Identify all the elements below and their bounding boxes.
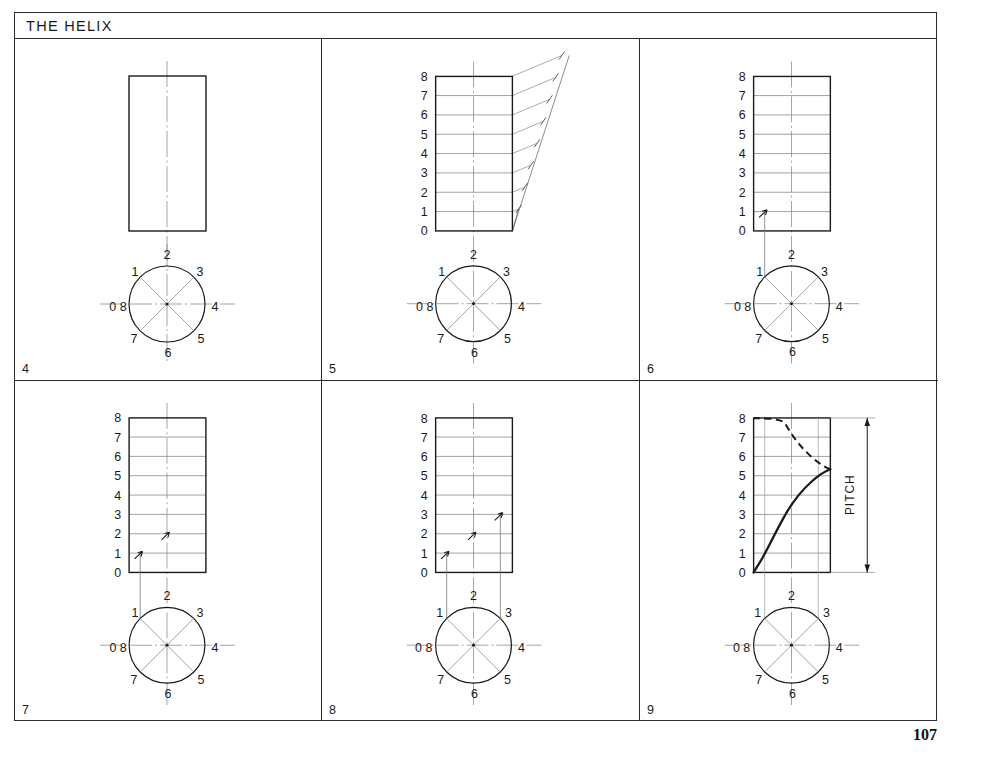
elevation-division-label-3: 3 (739, 508, 746, 522)
elevation-division-label-8: 8 (421, 412, 428, 426)
arrow-marker-level-1 (135, 551, 143, 559)
panel-step-number: 6 (647, 362, 654, 376)
elevation-division-label-3: 3 (421, 508, 428, 522)
elevation-division-label-6: 6 (421, 450, 428, 464)
plan-view: 2 3 4 5 6 7 0 8 1 (725, 248, 860, 360)
elevation-division-label-6: 6 (421, 108, 428, 122)
elevation-view: 0 1 2 3 4 5 6 7 8 (739, 412, 831, 580)
plan-label-5: 5 (822, 332, 829, 346)
plan-label-4: 4 (211, 641, 218, 655)
elevation-division-label-5: 5 (421, 469, 428, 483)
plan-label-3: 3 (197, 265, 204, 279)
elevation-rectangle (129, 76, 206, 231)
elevation-division-label-1: 1 (739, 205, 746, 219)
plan-label-3: 3 (503, 265, 510, 279)
drawing-page: THE HELIX (0, 0, 981, 777)
fan-return-7 (512, 77, 555, 95)
plan-label-0-8: 0 8 (416, 300, 433, 314)
sheet-title-bar: THE HELIX (15, 13, 936, 39)
elevation-division-label-7: 7 (421, 431, 428, 445)
elevation-division-label-4: 4 (739, 147, 746, 161)
plan-label-6: 6 (165, 687, 172, 701)
arrow-marker-level-1 (441, 551, 449, 559)
plan-label-1: 1 (436, 606, 443, 620)
plan-label-3: 3 (823, 606, 830, 620)
fan-inclined-line (512, 55, 569, 230)
panel-9-figure: 0 1 2 3 4 5 6 7 8 (640, 381, 938, 721)
elevation-division-label-2: 2 (421, 186, 428, 200)
panel-step-number: 9 (647, 703, 654, 717)
elevation-view: 0 1 2 3 4 5 6 7 8 (739, 70, 831, 238)
plan-label-2: 2 (164, 589, 171, 603)
plan-label-5: 5 (197, 673, 204, 687)
arrow-marker-level-2 (468, 532, 476, 540)
plan-label-6: 6 (789, 687, 796, 701)
elevation-division-label-8: 8 (421, 70, 428, 84)
elevation-division-lines (436, 437, 513, 553)
helix-curve-hidden (754, 418, 831, 469)
elevation-division-label-6: 6 (739, 450, 746, 464)
panel-8: 0 1 2 3 4 5 6 7 8 (321, 380, 639, 721)
elevation-division-label-0: 0 (739, 566, 746, 580)
fan-return-4 (512, 143, 537, 153)
drawing-sheet-border: THE HELIX (14, 12, 937, 721)
plan-label-4: 4 (836, 300, 843, 314)
plan-label-7: 7 (755, 673, 762, 687)
plan-label-7: 7 (437, 673, 444, 687)
plan-label-0-8: 0 8 (415, 641, 432, 655)
plan-label-4: 4 (518, 641, 525, 655)
fan-return-8 (512, 55, 561, 76)
plan-centre-dot (472, 302, 475, 305)
plan-label-2: 2 (470, 589, 477, 603)
fan-connector-1 (512, 209, 518, 231)
elevation-division-label-1: 1 (421, 547, 428, 561)
panel-4: 2 3 4 5 6 7 0 8 1 4 (15, 39, 321, 380)
arrow-marker-level-3 (495, 513, 503, 521)
plan-label-4: 4 (212, 300, 219, 314)
panel-grid: 2 3 4 5 6 7 0 8 1 4 (15, 39, 936, 721)
elevation-division-label-5: 5 (739, 469, 746, 483)
elevation-division-label-3: 3 (739, 166, 746, 180)
elevation-view: 0 1 2 3 4 5 6 7 8 (421, 412, 513, 580)
plan-label-5: 5 (822, 673, 829, 687)
elevation-division-label-8: 8 (739, 412, 746, 426)
plan-view: 2 3 4 5 6 7 0 8 1 (725, 589, 860, 701)
elevation-division-label-0: 0 (739, 224, 746, 238)
elevation-division-label-1: 1 (114, 547, 121, 561)
panel-step-number: 7 (22, 703, 29, 717)
plan-label-0-8: 0 8 (109, 641, 126, 655)
plan-label-2: 2 (788, 589, 795, 603)
plan-label-1: 1 (754, 606, 761, 620)
plan-label-5: 5 (504, 673, 511, 687)
plan-label-2: 2 (164, 248, 171, 262)
plan-centre-dot (472, 644, 475, 647)
elevation-division-label-2: 2 (739, 527, 746, 541)
plan-view: 2 3 4 5 6 7 0 8 1 (100, 244, 235, 364)
plan-label-3: 3 (505, 606, 512, 620)
plan-label-6: 6 (471, 346, 478, 360)
elevation-division-label-2: 2 (114, 527, 121, 541)
panel-step-number: 4 (22, 362, 29, 376)
plan-label-3: 3 (196, 606, 203, 620)
panel-7-figure: 0 1 2 3 4 5 6 7 8 (15, 381, 321, 721)
plan-centre-dot (166, 303, 169, 306)
plan-label-5: 5 (198, 332, 205, 346)
panel-5-figure: 0 1 2 3 4 5 6 7 8 (322, 39, 639, 380)
page-title: THE HELIX (15, 18, 113, 34)
elevation-division-label-1: 1 (421, 205, 428, 219)
panel-5: 0 1 2 3 4 5 6 7 8 (321, 39, 639, 380)
elevation-division-lines (129, 437, 206, 553)
pitch-arrowhead-bottom-icon (864, 564, 870, 572)
plan-label-7: 7 (131, 673, 138, 687)
plan-label-4: 4 (836, 641, 843, 655)
elevation-division-label-7: 7 (114, 431, 121, 445)
elevation-division-label-0: 0 (114, 566, 121, 580)
plan-centre-dot (166, 644, 169, 647)
plan-label-1: 1 (132, 265, 139, 279)
panel-step-number: 5 (329, 362, 336, 376)
elevation-division-label-7: 7 (739, 431, 746, 445)
fan-construction (512, 51, 569, 230)
panel-6-figure: 0 1 2 3 4 5 6 7 8 (640, 39, 938, 380)
plan-label-0-8: 0 8 (109, 300, 126, 314)
pitch-dimension: PITCH (830, 418, 875, 572)
